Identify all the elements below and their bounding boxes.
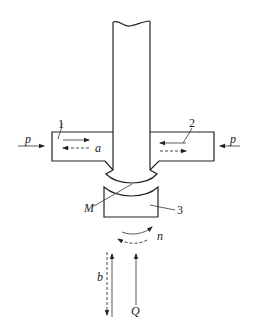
label-rotation-n: n	[157, 229, 163, 243]
rotation-n-solid-arrow	[122, 227, 152, 234]
label-part-2: 2	[189, 116, 195, 130]
tool-shaft	[113, 21, 150, 170]
mechanism-diagram: 1 2 3 p p a M n b Q	[0, 0, 258, 335]
label-motion-a: a	[95, 141, 101, 155]
workpiece-part-3	[104, 187, 158, 217]
rotation-n-dashed-arrow	[118, 239, 147, 243]
left-slide-part-1	[52, 132, 113, 170]
leader-M	[94, 184, 132, 206]
label-motion-b: b	[97, 270, 103, 284]
leader-3	[150, 205, 175, 210]
label-part-3: 3	[177, 203, 183, 217]
label-force-p-right: p	[229, 132, 236, 146]
label-force-p-left: p	[24, 132, 31, 146]
label-force-Q: Q	[131, 304, 140, 318]
label-part-1: 1	[58, 117, 64, 131]
shaft-tip	[106, 170, 157, 183]
label-point-M: M	[83, 201, 95, 215]
leader-2	[183, 128, 192, 143]
